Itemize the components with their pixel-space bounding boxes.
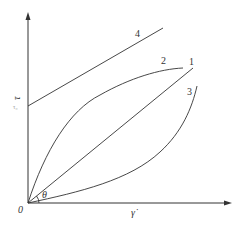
curve-1-line — [28, 68, 193, 203]
theta-arc — [37, 196, 40, 203]
curve-1-label: 1 — [189, 56, 194, 67]
y-axis-label: τ — [11, 96, 22, 100]
flow-curves-diagram: 4 2 1 3 θ 0 γ̇ τ τ₀ — [0, 0, 240, 227]
y-intercept-label: τ₀ — [13, 104, 18, 110]
y-axis — [26, 12, 31, 203]
y-axis-arrow-icon — [26, 12, 31, 20]
origin-label: 0 — [18, 204, 23, 215]
x-axis-label: γ̇ — [131, 207, 138, 218]
curve-4-line — [28, 28, 163, 106]
curve-3-label: 3 — [187, 86, 192, 97]
curve-2-label: 2 — [161, 55, 166, 66]
x-axis — [28, 201, 232, 206]
curve-4-label: 4 — [135, 28, 140, 39]
theta-label: θ — [42, 189, 47, 200]
x-axis-arrow-icon — [224, 201, 232, 206]
